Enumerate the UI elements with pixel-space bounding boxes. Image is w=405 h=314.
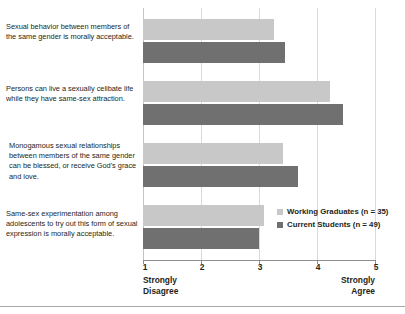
category-label-3: Monogamous sexual relationships between … bbox=[9, 141, 138, 182]
bar-series-1-category-1[interactable] bbox=[143, 104, 343, 125]
legend-label-current-students: Current Students (n = 49) bbox=[287, 220, 380, 229]
scale-min-caption-line1: Strongly bbox=[143, 275, 178, 286]
scale-max-caption-line2: Agree bbox=[320, 286, 375, 297]
bar-chart: Sexual behavior between members of the s… bbox=[0, 0, 405, 314]
category-label-3-line2: between members of the same gender bbox=[9, 151, 138, 161]
category-label-2: Persons can live a sexually celibate lif… bbox=[6, 84, 138, 104]
legend: Working Graduates (n = 35) Current Stude… bbox=[277, 206, 388, 232]
category-label-2-line2: while they have same-sex attraction. bbox=[6, 94, 138, 104]
x-tick-label-2: 2 bbox=[200, 262, 205, 272]
bar-series-1-category-0[interactable] bbox=[143, 42, 285, 63]
legend-swatch-working-graduates bbox=[277, 209, 283, 215]
category-label-1: Sexual behavior between members of the s… bbox=[6, 22, 138, 42]
bar-series-0-category-1[interactable] bbox=[143, 81, 330, 102]
scale-min-caption: Strongly Disagree bbox=[143, 275, 178, 296]
category-label-3-line1: Monogamous sexual relationships bbox=[9, 141, 138, 151]
x-tick-label-1: 1 bbox=[143, 262, 148, 272]
legend-item-current-students[interactable]: Current Students (n = 49) bbox=[277, 219, 388, 230]
category-label-3-line3: can be blessed, or receive God's grace bbox=[9, 161, 138, 171]
bar-series-1-category-2[interactable] bbox=[143, 166, 298, 187]
category-label-1-line2: the same gender is morally acceptable. bbox=[6, 32, 138, 42]
x-tick-label-5: 5 bbox=[374, 262, 379, 272]
category-label-1-line1: Sexual behavior between members of bbox=[6, 22, 138, 32]
bar-series-1-category-3[interactable] bbox=[143, 228, 259, 249]
bar-series-0-category-2[interactable] bbox=[143, 143, 283, 164]
category-label-2-line1: Persons can live a sexually celibate lif… bbox=[6, 84, 138, 94]
category-label-4-line3: expression is morally acceptable. bbox=[6, 229, 138, 239]
x-tick-label-4: 4 bbox=[316, 262, 321, 272]
category-label-4: Same-sex experimentation among adolescen… bbox=[6, 209, 138, 240]
legend-item-working-graduates[interactable]: Working Graduates (n = 35) bbox=[277, 206, 388, 217]
bar-series-0-category-3[interactable] bbox=[143, 205, 264, 226]
scale-max-caption-line1: Strongly bbox=[320, 275, 375, 286]
legend-label-working-graduates: Working Graduates (n = 35) bbox=[287, 207, 388, 216]
category-label-4-line2: adolescents to try out this form of sexu… bbox=[6, 219, 138, 229]
category-label-4-line1: Same-sex experimentation among bbox=[6, 209, 138, 219]
x-tick-label-3: 3 bbox=[258, 262, 263, 272]
bar-series-0-category-0[interactable] bbox=[143, 19, 274, 40]
category-label-3-line4: and love. bbox=[9, 172, 138, 182]
scale-max-caption: Strongly Agree bbox=[320, 275, 375, 296]
scale-min-caption-line2: Disagree bbox=[143, 286, 178, 297]
legend-swatch-current-students bbox=[277, 222, 283, 228]
footer-rule bbox=[0, 306, 405, 307]
